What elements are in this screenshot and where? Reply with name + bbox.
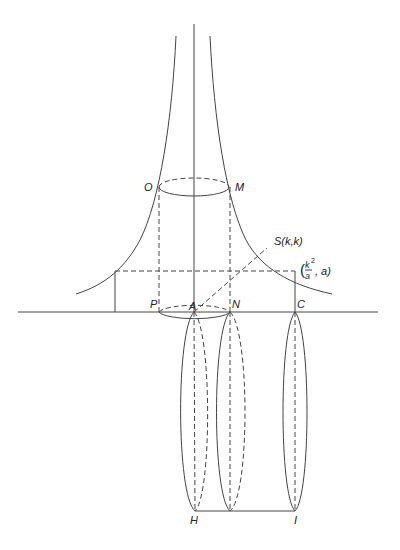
label-point-k2a: ( k 2 a , a) [300,257,331,281]
svg-text:2: 2 [311,257,315,264]
ellipse-A-axis [194,312,195,511]
label-S: S(k,k) [274,235,303,247]
label-C: C [297,298,305,310]
ellipse-N-right [230,312,245,511]
ellipse-N-left [217,312,231,511]
ellipse-C-right [295,312,307,511]
left-curve [76,36,176,294]
label-O: O [144,181,153,193]
svg-text:k: k [305,260,310,270]
right-curve [210,36,332,294]
ellipse-C-left [283,312,295,511]
ellipse-A-right [194,312,208,511]
svg-text:a: a [305,271,310,281]
label-A: A [188,300,196,312]
svg-text:, a): , a) [315,265,331,277]
ellipse-A-left [181,312,195,511]
diagram-canvas: O M S(k,k) ( k 2 a , a) P A N C H I [0,0,400,550]
label-M: M [235,181,245,193]
label-H: H [190,514,198,526]
label-P: P [150,298,158,310]
label-N: N [232,298,240,310]
label-I: I [294,514,297,526]
